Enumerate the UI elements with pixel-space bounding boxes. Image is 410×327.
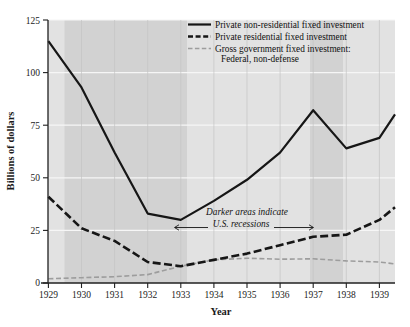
y-tick-label-50: 50 (31, 173, 41, 183)
x-tick-label-1937: 1937 (304, 290, 323, 300)
x-tick-label-1934: 1934 (204, 290, 223, 300)
y-axis-tick-labels: 0 25 50 75 100 125 (26, 16, 41, 289)
y-axis-title: Billions of dollars (5, 112, 16, 191)
y-tick-label-100: 100 (26, 68, 41, 78)
x-tick-label-1935: 1935 (238, 290, 257, 300)
recession-band-2 (310, 20, 343, 283)
x-axis-title: Year (211, 306, 232, 317)
y-tick-label-75: 75 (31, 121, 41, 131)
y-tick-label-25: 25 (31, 226, 41, 236)
x-tick-label-1939: 1939 (370, 290, 389, 300)
chart-figure: 0 25 50 75 100 125 1929 1930 1931 193 (0, 0, 410, 327)
x-axis-ticks (48, 283, 379, 288)
x-axis-tick-labels: 1929 1930 1931 1932 1933 1934 1935 1936 … (39, 290, 389, 300)
x-tick-label-1938: 1938 (337, 290, 356, 300)
line-chart: 0 25 50 75 100 125 1929 1930 1931 193 (0, 0, 410, 327)
y-tick-label-0: 0 (35, 278, 40, 288)
x-tick-label-1936: 1936 (271, 290, 290, 300)
recession-annotation-line1: Darker areas indicate (205, 207, 288, 217)
legend-label-gross-government: Gross government fixed investment: (215, 44, 351, 54)
x-tick-label-1930: 1930 (72, 290, 91, 300)
legend-label-private-non-residential: Private non-residential fixed investment (215, 20, 364, 30)
legend-label-gross-government-line2: Federal, non-defense (221, 54, 299, 64)
recession-annotation-line2: U.S. recessions (213, 219, 270, 229)
x-tick-label-1932: 1932 (138, 290, 157, 300)
x-tick-label-1933: 1933 (171, 290, 190, 300)
y-axis-ticks (43, 20, 48, 283)
y-tick-label-125: 125 (26, 16, 41, 26)
x-tick-label-1929: 1929 (39, 290, 58, 300)
legend-label-private-residential: Private residential fixed investment (215, 32, 347, 42)
recession-band-1 (65, 20, 188, 283)
x-tick-label-1931: 1931 (105, 290, 124, 300)
